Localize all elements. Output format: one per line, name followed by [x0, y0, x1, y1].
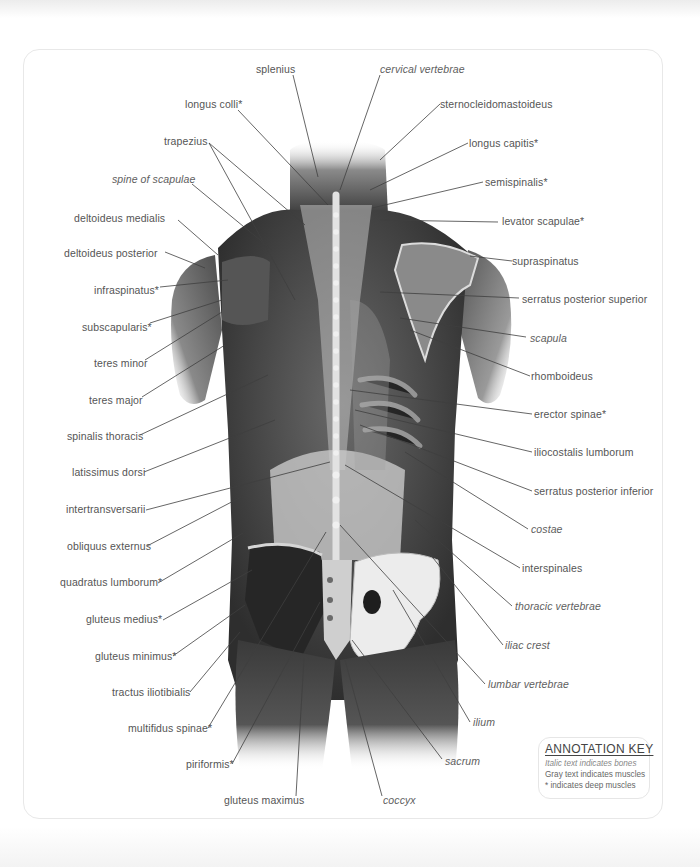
annotation-key-title: ANNOTATION KEY — [545, 742, 643, 756]
label-serratus-posterior-superior: serratus posterior superior — [522, 293, 647, 305]
label-longus-colli: longus colli* — [185, 98, 242, 110]
label-subscapularis: subscapularis* — [82, 321, 152, 333]
label-supraspinatus: supraspinatus — [512, 255, 579, 267]
label-coccyx: coccyx — [383, 794, 416, 806]
label-obliquus-externus: obliquus externus — [67, 540, 151, 552]
label-levator-scapulae: levator scapulae* — [502, 215, 584, 227]
label-trapezius: trapezius — [164, 135, 208, 147]
label-deltoideus-medialis: deltoideus medialis — [74, 212, 165, 224]
label-latissimus-dorsi: latissimus dorsi — [72, 466, 145, 478]
label-rhomboideus: rhomboideus — [531, 370, 593, 382]
label-longus-capitis: longus capitis* — [469, 137, 538, 149]
label-teres-major: teres major — [89, 394, 143, 406]
label-costae: costae — [531, 523, 563, 535]
label-iliac-crest: iliac crest — [505, 639, 550, 651]
legs — [235, 640, 458, 770]
annotation-key: ANNOTATION KEY Italic text indicates bon… — [538, 737, 650, 799]
label-splenius: splenius — [256, 63, 295, 75]
label-scapula: scapula — [530, 332, 567, 344]
label-serratus-posterior-inferior: serratus posterior inferior — [534, 485, 653, 497]
label-lumbar-vertebrae: lumbar vertebrae — [488, 678, 569, 690]
label-gluteus-minimus: gluteus minimus* — [95, 650, 177, 662]
label-quadratus-lumborum: quadratus lumborum* — [60, 576, 162, 588]
label-sternocleidomastoideus: sternocleidomastoideus — [440, 98, 553, 110]
label-gluteus-maximus: gluteus maximus — [224, 794, 304, 806]
label-multifidus-spinae: multifidus spinae* — [128, 722, 212, 734]
annotation-key-muscles: Gray text indicates muscles — [545, 769, 643, 780]
label-sacrum: sacrum — [445, 755, 480, 767]
label-spinalis-thoracis: spinalis thoracis — [67, 430, 143, 442]
annotation-key-bones: Italic text indicates bones — [545, 758, 643, 769]
label-piriformis: piriformis* — [186, 758, 234, 770]
label-teres-minor: teres minor — [94, 357, 148, 369]
label-infraspinatus: infraspinatus* — [94, 284, 159, 296]
label-semispinalis: semispinalis* — [485, 176, 548, 188]
left-arm — [171, 255, 222, 404]
label-ilium: ilium — [473, 716, 495, 728]
label-gluteus-medius: gluteus medius* — [86, 613, 162, 625]
label-erector-spinae: erector spinae* — [534, 408, 606, 420]
label-spine-of-scapulae: spine of scapulae — [112, 173, 195, 185]
label-thoracic-vertebrae: thoracic vertebrae — [515, 600, 601, 612]
label-intertransversarii: intertransversarii — [66, 503, 145, 515]
label-interspinales: interspinales — [522, 562, 582, 574]
annotation-key-deep-muscles: * indicates deep muscles — [545, 780, 643, 791]
label-iliocostalis-lumborum: iliocostalis lumborum — [534, 446, 634, 458]
label-deltoideus-posterior: deltoideus posterior — [64, 247, 158, 259]
label-cervical-vertebrae: cervical vertebrae — [380, 63, 465, 75]
label-tractus-iliotibialis: tractus iliotibialis — [112, 686, 190, 698]
